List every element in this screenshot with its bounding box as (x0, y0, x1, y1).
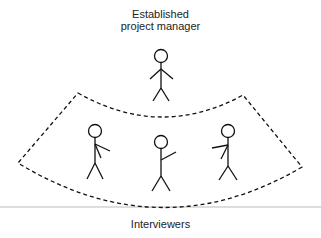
interviewer-right-figure-icon (212, 125, 237, 181)
interviewer-group-boundary (18, 93, 302, 208)
interviewer-left-figure-icon (87, 125, 110, 180)
manager-figure-icon (150, 50, 173, 102)
diagram-canvas (0, 0, 321, 238)
interviewers-label: Interviewers (0, 218, 321, 230)
interviewer-center-figure-icon (152, 136, 176, 192)
